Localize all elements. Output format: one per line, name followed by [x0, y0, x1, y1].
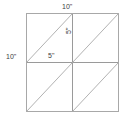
- square-diagram-svg: [0, 0, 127, 120]
- diagonal-bottom-right-quadrant: [73, 63, 119, 112]
- diagonal-bottom-left-quadrant: [27, 63, 73, 112]
- geometry-figure: 10" 10" 5" 5": [0, 0, 127, 120]
- label-inner-horizontal: 5": [48, 52, 54, 60]
- label-top-side: 10": [62, 3, 72, 11]
- diagonal-top-right-quadrant: [73, 14, 119, 63]
- label-left-side: 10": [6, 53, 16, 61]
- label-inner-vertical: 5": [65, 28, 73, 34]
